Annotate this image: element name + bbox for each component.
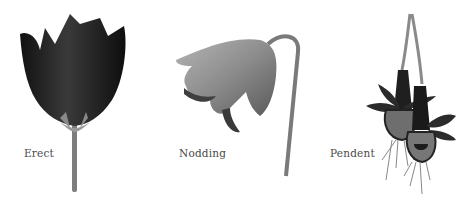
panel-erect: Erect — [0, 0, 160, 211]
label-pendent: Pendent — [330, 147, 375, 159]
erect-flower-icon — [0, 0, 160, 211]
label-nodding: Nodding — [179, 147, 226, 159]
panel-nodding: Nodding — [160, 0, 320, 211]
label-erect: Erect — [24, 147, 54, 159]
pendent-flower-icon — [310, 0, 473, 211]
flower-orientation-figure: Erect Nodding — [0, 0, 473, 211]
nodding-flower-icon — [160, 0, 320, 211]
panel-pendent: Pendent — [310, 0, 473, 211]
